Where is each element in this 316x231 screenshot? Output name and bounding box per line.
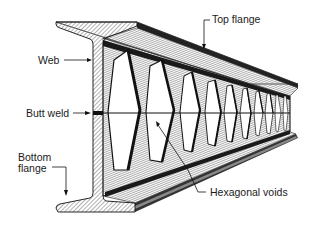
label-butt-weld: Butt weld xyxy=(26,108,69,119)
label-bottom-flange-line2: flange xyxy=(18,163,47,174)
label-hexagonal-voids: Hexagonal voids xyxy=(210,187,288,198)
top-flange-leader xyxy=(204,20,210,48)
label-web: Web xyxy=(38,55,59,66)
butt-weld-mark xyxy=(93,111,103,115)
label-top-flange: Top flange xyxy=(212,14,260,25)
beam-diagram: Top flange Web Butt weld Bottom flange H… xyxy=(0,0,316,231)
bottom-flange-leader xyxy=(52,167,66,194)
